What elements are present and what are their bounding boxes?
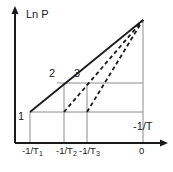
x-tick-label-zero: 0 <box>139 146 144 156</box>
x-axis-arrowhead-icon <box>160 140 168 147</box>
x-tick-label-t2: -1/T2 <box>56 146 77 156</box>
series-line-2-dashed <box>64 20 143 112</box>
x-tick-label-t3: -1/T3 <box>79 146 100 156</box>
y-axis-label: Ln P <box>26 9 49 20</box>
clausius-clapeyron-plot: Ln P -1/T -1/T1 -1/T2 -1/T3 0 1 2 3 <box>0 0 173 172</box>
series-line-3-dashed <box>87 20 143 112</box>
x-tick-label-t2-base: -1/T <box>56 145 73 156</box>
curve-label-2: 2 <box>49 68 55 79</box>
curve-label-3: 3 <box>74 68 80 79</box>
x-tick-label-t1-subscript: 1 <box>39 150 43 157</box>
x-tick-label-t3-subscript: 3 <box>96 150 100 157</box>
curve-label-1: 1 <box>18 111 24 122</box>
x-tick-label-t1: -1/T1 <box>22 146 43 156</box>
x-tick-label-t3-base: -1/T <box>79 145 96 156</box>
x-tick-label-t1-base: -1/T <box>22 145 39 156</box>
y-axis-arrowhead-icon <box>12 6 19 14</box>
x-tick-label-t2-subscript: 2 <box>73 150 77 157</box>
gridlines <box>30 20 143 143</box>
x-axis-label: -1/T <box>133 121 153 132</box>
